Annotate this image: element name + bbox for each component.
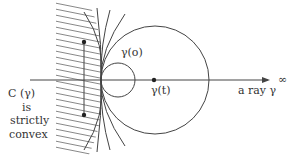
label-c-gamma: C (γ) [8, 87, 35, 100]
label-gamma-t: γ(t) [151, 84, 171, 97]
label-is: is [22, 101, 32, 114]
label-convex: convex [9, 128, 49, 141]
chord-endpoint-top [82, 40, 86, 44]
chord-endpoint-bottom [82, 113, 86, 117]
gamma-t-point [152, 78, 156, 82]
convexity-diagram: C (γ) is strictly convex γ(o) γ(t) a ray… [0, 0, 302, 157]
arrow-head [262, 77, 270, 83]
label-a-ray: a ray γ [238, 84, 277, 97]
label-infinity: ∞ [278, 73, 287, 86]
label-gamma-o: γ(o) [121, 46, 143, 59]
label-strictly: strictly [10, 114, 50, 127]
